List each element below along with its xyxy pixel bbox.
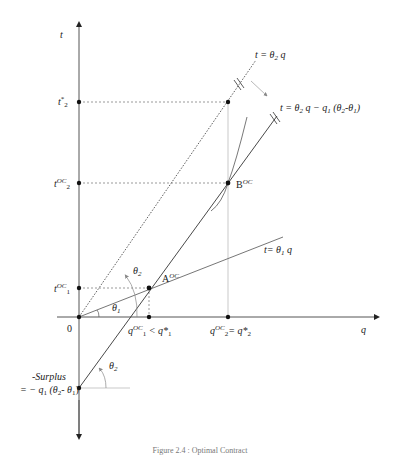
t-axis-label: t — [60, 29, 63, 40]
label-theta2-upper: θ2 — [133, 265, 142, 278]
point-t-oc-2 — [77, 181, 81, 185]
point-A — [147, 286, 152, 291]
origin-label: 0 — [67, 323, 72, 334]
point-first-best-2 — [226, 100, 230, 104]
point-q-oc-2 — [226, 315, 230, 319]
label-q-oc-2: qOC2= q*2 — [210, 324, 251, 338]
shift-arrow-icon — [251, 81, 266, 95]
shifted-line-label: t = θ2 q − q1 (θ2-θ1) — [280, 102, 361, 115]
theta2-lower-arc-icon — [100, 369, 106, 388]
theta1-arc-icon — [97, 310, 99, 317]
point-origin — [77, 315, 81, 319]
label-theta1: θ1 — [112, 302, 120, 315]
point-t-star-2 — [77, 100, 81, 104]
point-t-oc-1 — [77, 286, 81, 290]
theta1-line-label: t= θ1 q — [264, 244, 292, 257]
theta2-line-label: t = θ2 q — [255, 49, 285, 62]
point-B — [226, 181, 231, 186]
surplus-formula: = − q1 (θ2- θ1) — [20, 384, 79, 397]
label-A: AOC — [162, 272, 179, 284]
optimal-contract-diagram: t q 0 t*2 tOC2 tOC1 qOC1 < q*1 qOC2= q*2… — [0, 0, 400, 459]
theta1-line — [79, 237, 283, 317]
label-q-oc-1: qOC1 < q*1 — [128, 324, 172, 338]
surplus-label: -Surplus — [32, 371, 66, 382]
q-axis-label: q — [361, 324, 366, 335]
label-theta2-lower: θ2 — [109, 360, 118, 373]
label-B: BOC — [236, 178, 253, 190]
label-t-oc-1: tOC1 — [54, 282, 71, 296]
shifted-line — [79, 116, 277, 388]
label-t-oc-2: tOC2 — [54, 177, 71, 191]
point-q-oc-1 — [147, 315, 151, 319]
figure-caption: Figure 2.4 : Optimal Contract — [0, 446, 400, 455]
label-t-star-2: t*2 — [58, 95, 68, 109]
